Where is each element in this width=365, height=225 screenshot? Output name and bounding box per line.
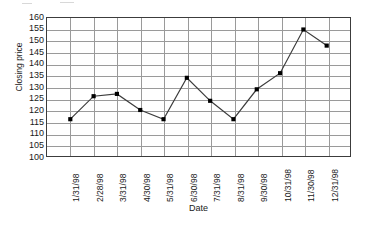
- x-tick-label: 5/31/98: [166, 174, 175, 202]
- x-axis-title: Date: [46, 203, 351, 213]
- y-tick-label: 110: [10, 129, 44, 138]
- y-axis-tick-labels: 160155150145140135130125120115110105100: [10, 12, 44, 158]
- x-tick-label: 3/31/98: [119, 174, 128, 202]
- y-tick-label: 135: [10, 71, 44, 80]
- x-tick-label: 9/30/98: [260, 174, 269, 202]
- closing-price-line-chart: Closing price 16015515014514013513012512…: [0, 0, 365, 225]
- y-tick-label: 100: [10, 153, 44, 162]
- y-tick-label: 155: [10, 24, 44, 33]
- data-point-marker: 10/31/98: 136: [278, 71, 282, 75]
- scan-artifact: [22, 3, 32, 4]
- y-tick-label: 145: [10, 48, 44, 57]
- x-tick-label: 8/31/98: [237, 174, 246, 202]
- data-point-marker: 1/31/98: 116: [68, 117, 72, 121]
- x-axis-tick-labels: 1/31/982/28/983/31/984/30/985/31/986/30/…: [46, 158, 351, 204]
- x-tick-label: 11/30/98: [307, 170, 316, 202]
- data-point-marker: 5/31/98: 116: [161, 117, 165, 121]
- data-point-marker: 6/30/98: 134: [185, 76, 189, 80]
- y-tick-label: 125: [10, 94, 44, 103]
- series-closing-price: 1/31/98: 1162/28/98: 1263/31/98: 1274/30…: [47, 18, 350, 156]
- y-tick-label: 115: [10, 118, 44, 127]
- y-tick-label: 150: [10, 36, 44, 45]
- series-line: [70, 30, 326, 120]
- y-tick-label: 105: [10, 141, 44, 150]
- data-point-marker: 8/31/98: 116: [231, 117, 235, 121]
- data-point-marker: 11/30/98: 155: [301, 27, 305, 31]
- x-tick-label: 4/30/98: [143, 174, 152, 202]
- x-tick-label: 7/31/98: [213, 174, 222, 202]
- data-point-marker: 12/31/98: 148: [325, 44, 329, 48]
- y-tick-label: 140: [10, 59, 44, 68]
- x-tick-label: 10/31/98: [284, 169, 293, 202]
- x-tick-label: 1/31/98: [72, 174, 81, 202]
- x-tick-label: 12/31/98: [331, 169, 340, 202]
- data-point-marker: 3/31/98: 127: [115, 92, 119, 96]
- scan-artifact: [60, 2, 74, 3]
- y-tick-label: 160: [10, 13, 44, 22]
- data-point-marker: 2/28/98: 126: [92, 94, 96, 98]
- data-point-marker: 4/30/98: 120: [138, 108, 142, 112]
- x-tick-label: 6/30/98: [190, 174, 199, 202]
- x-tick-label: 2/28/98: [96, 174, 105, 202]
- plot-area: 1/31/98: 1162/28/98: 1263/31/98: 1274/30…: [46, 17, 351, 157]
- data-point-marker: 9/30/98: 129: [255, 87, 259, 91]
- y-tick-label: 130: [10, 83, 44, 92]
- data-point-marker: 7/31/98: 124: [208, 99, 212, 103]
- y-tick-label: 120: [10, 106, 44, 115]
